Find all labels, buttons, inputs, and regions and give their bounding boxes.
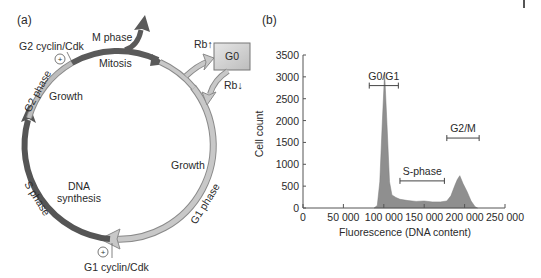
growth-g1-label: Growth [171, 159, 205, 171]
exit-arrowhead-icon [134, 15, 150, 32]
annotation-label: S-phase [403, 165, 442, 177]
annotation-label: G0/G1 [368, 70, 399, 82]
x-tick-label: 100 000 [365, 211, 403, 223]
x-tick-label: 0 [300, 211, 306, 223]
m-phase-label: M phase [92, 31, 132, 43]
x-tick-label: 50 000 [327, 211, 359, 223]
annotation-label: G2/M [450, 122, 476, 134]
x-tick-label: 150 000 [405, 211, 443, 223]
x-tick-label: 250 000 [486, 211, 524, 223]
dna-histogram-chart: (b) 0500100015002000250030003500 050 000… [253, 13, 524, 238]
page-mark [523, 0, 525, 8]
g1-cyclin-label: G1 cyclin/Cdk [84, 261, 150, 273]
y-tick-label: 2000 [276, 115, 300, 127]
x-axis-label: Fluorescence (DNA content) [339, 226, 471, 238]
y-tick-label: 1500 [276, 136, 300, 148]
y-axis-label: Cell count [253, 111, 265, 158]
synthesis-label: synthesis [57, 192, 101, 204]
g2-plus-sign: + [58, 55, 63, 64]
g2-cyclin-label: G2 cyclin/Cdk [19, 40, 85, 52]
s-phase-label: S phase [22, 179, 53, 218]
y-tick-label: 2500 [276, 93, 300, 105]
dna-label: DNA [68, 180, 90, 192]
cell-cycle-diagram: (a) G0 M phase [17, 13, 250, 273]
y-tick-label: 0 [293, 202, 299, 214]
y-tick-label: 500 [281, 180, 299, 192]
y-ticks: 0500100015002000250030003500 [276, 49, 306, 214]
g1-plus-sign: + [101, 248, 106, 257]
figure: (a) G0 M phase [0, 0, 541, 278]
g2-cyclin-pointer [67, 52, 72, 62]
histogram-area [374, 73, 477, 209]
x-tick-label: 200 000 [446, 211, 484, 223]
rb-down-label: Rb↓ [224, 79, 243, 91]
g0-label: G0 [225, 50, 239, 62]
panel-b-label: (b) [262, 13, 277, 27]
panel-a-label: (a) [17, 13, 32, 27]
rb-up-label: Rb↑ [194, 38, 213, 50]
y-tick-label: 3000 [276, 71, 300, 83]
y-tick-label: 1000 [276, 158, 300, 170]
y-tick-label: 3500 [276, 49, 300, 61]
growth-g2-label: Growth [49, 90, 83, 102]
mitosis-label: Mitosis [99, 57, 132, 69]
